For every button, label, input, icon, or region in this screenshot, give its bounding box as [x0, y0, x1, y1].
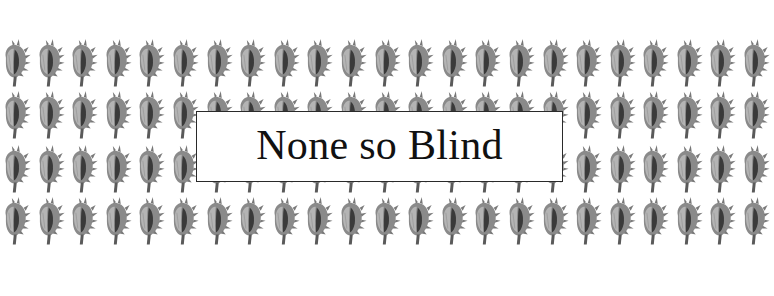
conch-shell-icon	[32, 90, 66, 142]
conch-shell-icon	[32, 196, 66, 248]
conch-shell-icon	[65, 144, 99, 196]
conch-shell-icon	[200, 196, 234, 248]
conch-shell-icon	[32, 38, 66, 90]
conch-shell-icon	[636, 196, 670, 248]
conch-shell-icon	[99, 144, 133, 196]
conch-shell-icon	[536, 196, 570, 248]
conch-shell-icon	[536, 38, 570, 90]
conch-shell-icon	[703, 144, 737, 196]
conch-shell-icon	[0, 144, 32, 196]
shell-pattern-row	[0, 196, 774, 248]
conch-shell-icon	[401, 38, 435, 90]
conch-shell-icon	[334, 196, 368, 248]
conch-shell-icon	[502, 196, 536, 248]
conch-shell-icon	[166, 196, 200, 248]
conch-shell-icon	[65, 90, 99, 142]
conch-shell-icon	[200, 38, 234, 90]
conch-shell-icon	[569, 90, 603, 142]
conch-shell-icon	[99, 38, 133, 90]
conch-shell-icon	[603, 144, 637, 196]
conch-shell-icon	[468, 196, 502, 248]
conch-shell-icon	[233, 196, 267, 248]
conch-shell-icon	[166, 90, 200, 142]
conch-shell-icon	[401, 196, 435, 248]
conch-shell-icon	[737, 38, 771, 90]
conch-shell-icon	[233, 38, 267, 90]
conch-shell-icon	[670, 38, 704, 90]
conch-shell-icon	[670, 90, 704, 142]
conch-shell-icon	[603, 38, 637, 90]
conch-shell-icon	[636, 90, 670, 142]
conch-shell-icon	[737, 90, 771, 142]
conch-shell-icon	[166, 144, 200, 196]
conch-shell-icon	[670, 144, 704, 196]
conch-shell-icon	[65, 196, 99, 248]
conch-shell-icon	[603, 90, 637, 142]
conch-shell-icon	[737, 196, 771, 248]
conch-shell-icon	[603, 196, 637, 248]
conch-shell-icon	[368, 38, 402, 90]
conch-shell-icon	[569, 144, 603, 196]
conch-shell-icon	[468, 38, 502, 90]
conch-shell-icon	[636, 38, 670, 90]
title-box: None so Blind	[196, 111, 563, 182]
conch-shell-icon	[99, 90, 133, 142]
conch-shell-icon	[703, 38, 737, 90]
banner-title: None so Blind	[256, 124, 503, 166]
conch-shell-icon	[267, 196, 301, 248]
conch-shell-icon	[435, 38, 469, 90]
conch-shell-icon	[32, 144, 66, 196]
conch-shell-icon	[132, 196, 166, 248]
conch-shell-icon	[132, 38, 166, 90]
conch-shell-icon	[368, 196, 402, 248]
conch-shell-icon	[300, 38, 334, 90]
conch-shell-icon	[0, 90, 32, 142]
conch-shell-icon	[636, 144, 670, 196]
conch-shell-icon	[737, 144, 771, 196]
conch-shell-icon	[166, 38, 200, 90]
conch-shell-icon	[569, 196, 603, 248]
conch-shell-icon	[0, 38, 32, 90]
conch-shell-icon	[132, 90, 166, 142]
conch-shell-icon	[0, 196, 32, 248]
conch-shell-icon	[569, 38, 603, 90]
shell-pattern-row	[0, 38, 774, 90]
conch-shell-icon	[435, 196, 469, 248]
conch-shell-icon	[703, 90, 737, 142]
conch-shell-icon	[703, 196, 737, 248]
conch-shell-icon	[502, 38, 536, 90]
conch-shell-icon	[334, 38, 368, 90]
conch-shell-icon	[65, 38, 99, 90]
conch-shell-icon	[300, 196, 334, 248]
conch-shell-icon	[670, 196, 704, 248]
conch-shell-icon	[267, 38, 301, 90]
conch-shell-icon	[132, 144, 166, 196]
conch-shell-icon	[99, 196, 133, 248]
